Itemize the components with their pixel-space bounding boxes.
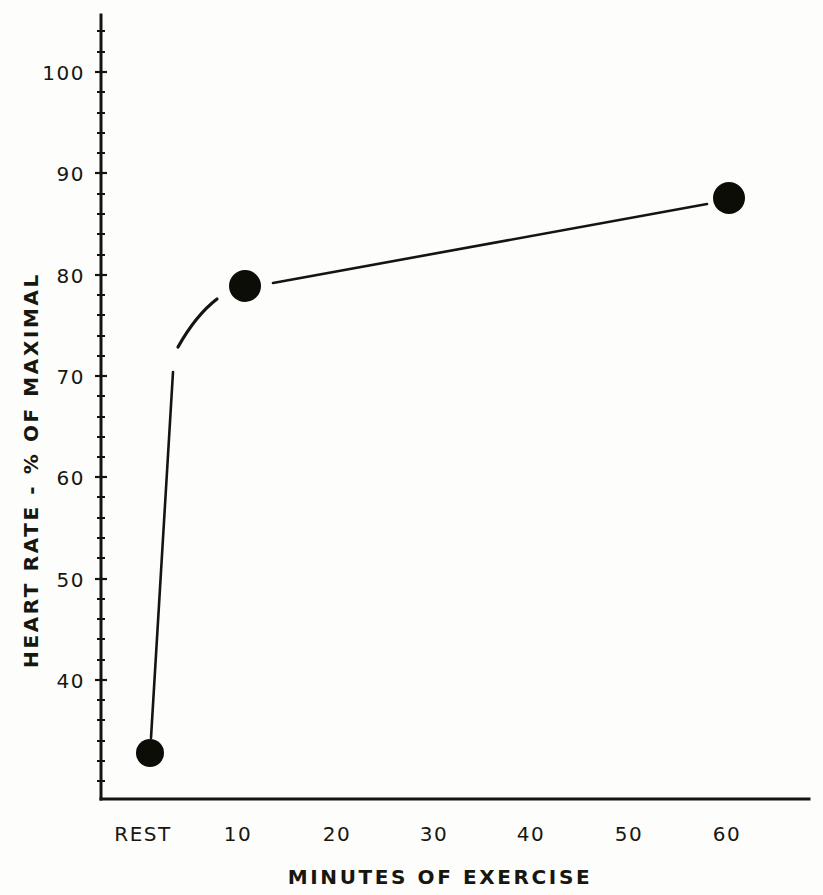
chart-figure: 100 90 80 70 60 50 40 REST 10 20 30 40 5… bbox=[0, 0, 823, 895]
y-tick-label-80: 80 bbox=[57, 264, 85, 288]
y-tick-label-40: 40 bbox=[57, 669, 85, 693]
data-point-10min bbox=[229, 270, 261, 302]
x-tick-label-40: 40 bbox=[517, 822, 545, 846]
x-tick-label-50: 50 bbox=[615, 822, 643, 846]
y-tick-label-50: 50 bbox=[57, 568, 85, 592]
y-axis bbox=[95, 15, 107, 799]
x-tick-label-60: 60 bbox=[713, 822, 741, 846]
x-tick-label-30: 30 bbox=[420, 822, 448, 846]
x-axis-title: MINUTES OF EXERCISE bbox=[288, 865, 592, 889]
y-tick-label-70: 70 bbox=[57, 365, 85, 389]
y-tick-label-100: 100 bbox=[42, 61, 85, 85]
x-tick-label-rest: REST bbox=[114, 822, 171, 846]
y-axis-title: HEART RATE - % OF MAXIMAL bbox=[19, 272, 43, 668]
series-segment-shoulder-curve bbox=[178, 299, 217, 347]
y-tick-label-60: 60 bbox=[57, 466, 85, 490]
data-point-rest bbox=[136, 739, 164, 767]
series-segment-rest-to-10 bbox=[151, 372, 173, 738]
chart-plot-area: 100 90 80 70 60 50 40 REST 10 20 30 40 5… bbox=[0, 0, 823, 895]
x-tick-label-10: 10 bbox=[224, 822, 252, 846]
y-tick-label-90: 90 bbox=[57, 162, 85, 186]
x-tick-label-20: 20 bbox=[323, 822, 351, 846]
series-segment-10-to-60 bbox=[273, 204, 707, 283]
data-point-60min bbox=[713, 182, 745, 214]
data-series-heart-rate bbox=[136, 182, 745, 767]
